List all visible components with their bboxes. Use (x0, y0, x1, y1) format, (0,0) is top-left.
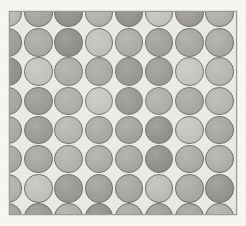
lattice-dot (175, 87, 203, 115)
lattice-dot (9, 203, 22, 215)
lattice-dot (85, 28, 113, 56)
dot-lattice (10, 12, 236, 214)
lattice-dot (115, 57, 143, 85)
lattice-dot (9, 87, 22, 115)
lattice-dot (85, 145, 113, 173)
lattice-dot (9, 116, 22, 144)
lattice-dot (236, 57, 237, 85)
lattice-dot (115, 28, 143, 56)
lattice-dot (54, 203, 82, 215)
lattice-dot (175, 28, 203, 56)
lattice-dot (115, 116, 143, 144)
lattice-dot (85, 174, 113, 202)
lattice-dot (9, 174, 22, 202)
lattice-dot (236, 28, 237, 56)
lattice-dot (115, 11, 143, 27)
lattice-dot (175, 116, 203, 144)
lattice-dot (24, 145, 52, 173)
lattice-dot (9, 145, 22, 173)
lattice-dot (54, 28, 82, 56)
lattice-dot (24, 203, 52, 215)
lattice-dot (85, 203, 113, 215)
lattice-dot (54, 87, 82, 115)
lattice-dot (236, 116, 237, 144)
lattice-dot (175, 174, 203, 202)
lattice-dot (24, 116, 52, 144)
lattice-dot (145, 87, 173, 115)
lattice-dot (54, 145, 82, 173)
lattice-dot (236, 11, 237, 27)
lattice-dot (145, 11, 173, 27)
lattice-dot (236, 87, 237, 115)
lattice-dot (24, 57, 52, 85)
lattice-dot (85, 11, 113, 27)
lattice-dot (115, 145, 143, 173)
lattice-dot (115, 174, 143, 202)
lattice-dot (145, 174, 173, 202)
lattice-dot (205, 57, 233, 85)
lattice-dot (85, 57, 113, 85)
lattice-dot (175, 57, 203, 85)
lattice-dot (9, 11, 22, 27)
lattice-dot (9, 28, 22, 56)
lattice-dot (54, 174, 82, 202)
lattice-dot (205, 203, 233, 215)
dot-pattern-panel (9, 11, 237, 215)
lattice-dot (85, 87, 113, 115)
lattice-dot (236, 145, 237, 173)
lattice-dot (205, 11, 233, 27)
lattice-dot (54, 116, 82, 144)
lattice-dot (205, 28, 233, 56)
lattice-dot (236, 174, 237, 202)
lattice-dot (205, 145, 233, 173)
artboard (0, 0, 246, 226)
lattice-dot (205, 87, 233, 115)
lattice-dot (24, 28, 52, 56)
lattice-dot (85, 116, 113, 144)
lattice-dot (9, 57, 22, 85)
lattice-dot (175, 11, 203, 27)
lattice-dot (24, 11, 52, 27)
lattice-dot (175, 203, 203, 215)
lattice-dot (54, 11, 82, 27)
lattice-dot (175, 145, 203, 173)
lattice-dot (24, 87, 52, 115)
lattice-dot (145, 203, 173, 215)
lattice-dot (145, 28, 173, 56)
lattice-dot (205, 116, 233, 144)
lattice-dot (115, 87, 143, 115)
lattice-dot (236, 203, 237, 215)
lattice-dot (145, 57, 173, 85)
lattice-dot (54, 57, 82, 85)
lattice-dot (115, 203, 143, 215)
lattice-dot (145, 116, 173, 144)
lattice-dot (205, 174, 233, 202)
lattice-dot (145, 145, 173, 173)
lattice-dot (24, 174, 52, 202)
